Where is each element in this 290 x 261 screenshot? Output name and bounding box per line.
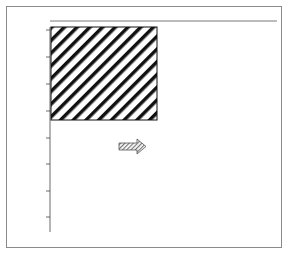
arrow-icon: [119, 139, 146, 154]
masked-region: [51, 27, 157, 120]
y-axis: [46, 27, 50, 232]
actogram-plot: [0, 0, 290, 261]
